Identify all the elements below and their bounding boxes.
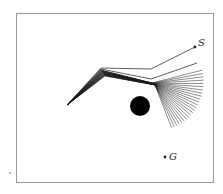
goal-point-marker	[164, 156, 167, 159]
arm-configurations	[67, 47, 204, 128]
start-point-marker	[194, 46, 197, 49]
stray-dot-marker	[9, 172, 11, 174]
obstacle-circle	[130, 96, 150, 116]
plot-frame	[17, 14, 214, 183]
start-label: S	[198, 38, 205, 48]
goal-label: G	[169, 152, 177, 162]
motion-planning-diagram	[0, 0, 223, 194]
